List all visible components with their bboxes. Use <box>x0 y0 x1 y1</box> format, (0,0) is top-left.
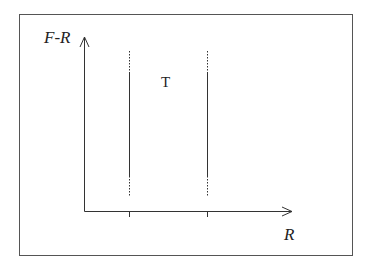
diagram-canvas: F-R R T <box>0 0 373 268</box>
x-axis <box>85 207 293 217</box>
region-label: T <box>161 74 170 90</box>
diagram-frame <box>20 15 353 256</box>
y-axis-label: F-R <box>43 28 71 47</box>
y-axis <box>80 37 89 212</box>
x-axis-label: R <box>283 225 295 244</box>
